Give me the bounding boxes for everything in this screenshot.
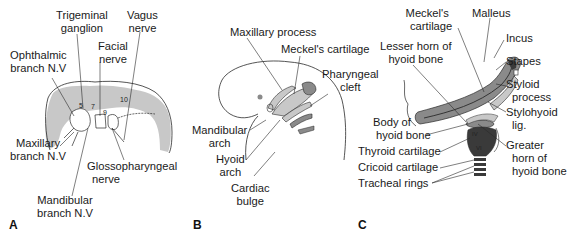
label-line: Lesser horn of: [380, 40, 452, 53]
label-line: Ophthalmic: [10, 49, 67, 62]
label-greater-horn-hyoid: Greater horn of hyoid bone: [506, 139, 567, 178]
label-line: process: [506, 91, 551, 104]
label-line: cartilage: [402, 20, 452, 33]
label-maxillary-branch: Maxillary branch N.V: [10, 137, 66, 163]
label-line: Greater: [506, 139, 567, 152]
label-line: arch: [216, 166, 245, 179]
label-line: Hyoid: [216, 153, 245, 166]
label-body-hyoid: Body of hyoid bone: [373, 116, 431, 142]
label-styloid-process: Styloid process: [506, 78, 551, 104]
arch-number-iv: IV: [472, 131, 478, 137]
label-lesser-horn-hyoid: Lesser horn of hyoid bone: [380, 40, 452, 66]
label-ophthalmic-branch: Ophthalmic branch N.V: [10, 49, 67, 75]
label-line: Vagus: [127, 9, 158, 22]
label-tracheal-rings: Tracheal rings: [358, 177, 428, 190]
label-stylohyoid-lig: Stylohyoid lig.: [506, 106, 558, 132]
label-line: Styloid: [506, 78, 551, 91]
label-maxillary-process: Maxillary process: [230, 26, 316, 39]
label-trigeminal-ganglion: Trigeminal ganglion: [56, 9, 108, 35]
label-hyoid-arch: Hyoid arch: [216, 153, 245, 179]
label-cricoid-cartilage: Cricoid cartilage: [358, 161, 438, 174]
panel-letter-b: B: [193, 218, 202, 232]
label-line: nerve: [98, 53, 128, 66]
ganglion-number-10: 10: [120, 96, 128, 103]
label-line: ganglion: [56, 22, 108, 35]
label-line: Body of: [373, 116, 431, 129]
label-pharyngeal-cleft: Pharyngeal cleft: [322, 68, 379, 94]
label-cardiac-bulge: Cardiac bulge: [231, 182, 270, 208]
panel-letter-a: A: [9, 218, 18, 232]
label-line: Mandibular: [192, 124, 247, 137]
label-meckels-cartilage-c: Meckel's cartilage: [402, 7, 452, 33]
label-incus: Incus: [506, 32, 533, 45]
label-line: hyoid bone: [373, 129, 431, 142]
label-line: nerve: [87, 173, 177, 186]
ganglion-number-7: 7: [91, 103, 95, 110]
label-line: Stylohyoid: [506, 106, 558, 119]
label-glossopharyngeal-nerve: Glossopharyngeal nerve: [87, 160, 177, 186]
label-line: arch: [192, 137, 247, 150]
label-line: horn of: [506, 152, 567, 165]
label-line: branch N.V: [10, 150, 66, 163]
label-line: Meckel's: [402, 7, 452, 20]
label-line: Glossopharyngeal: [87, 160, 177, 173]
label-stapes: Stapes: [506, 55, 541, 68]
label-line: branch N.V: [37, 207, 93, 220]
label-line: lig.: [506, 119, 558, 132]
label-facial-nerve: Facial nerve: [98, 40, 128, 66]
ganglion-number-5: 5: [79, 102, 83, 109]
label-line: branch N.V: [10, 62, 67, 75]
label-line: nerve: [127, 22, 158, 35]
label-line: Facial: [98, 40, 128, 53]
label-line: Maxillary: [10, 137, 66, 150]
ganglion-number-9: 9: [103, 109, 107, 116]
label-line: Mandibular: [37, 194, 93, 207]
label-line: Cardiac: [231, 182, 270, 195]
label-line: cleft: [322, 81, 379, 94]
arch-number-vi: VI: [476, 145, 482, 151]
label-malleus: Malleus: [472, 7, 511, 20]
panel-letter-c: C: [358, 218, 367, 232]
label-line: Trigeminal: [56, 9, 108, 22]
label-line: hyoid bone: [380, 53, 452, 66]
label-line: Pharyngeal: [322, 68, 379, 81]
label-mandibular-arch: Mandibular arch: [192, 124, 247, 150]
label-meckels-cartilage-b: Meckel's cartilage: [281, 43, 370, 56]
label-line: bulge: [231, 195, 270, 208]
label-line: hyoid bone: [506, 165, 567, 178]
label-mandibular-branch: Mandibular branch N.V: [37, 194, 93, 220]
label-thyroid-cartilage: Thyroid cartilage: [358, 145, 441, 158]
label-vagus-nerve: Vagus nerve: [127, 9, 158, 35]
